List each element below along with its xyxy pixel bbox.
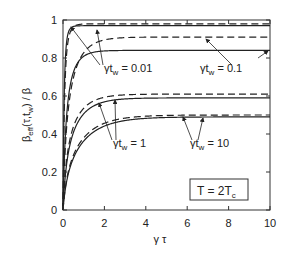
x-tick-label: 0	[60, 217, 66, 229]
svg-text:βeff(τ,tw) / β: βeff(τ,tw) / β	[20, 88, 35, 142]
x-tick-label: 10	[264, 217, 276, 229]
y-tick-label: 0.4	[42, 128, 57, 140]
curve-annotations: γtw = 0.01γtw = 0.1γtw = 1γtw = 10	[71, 27, 268, 152]
annotation-arrow	[99, 103, 112, 140]
curve-label: γtw = 1	[113, 137, 146, 152]
annotation-box: T = 2Tc	[190, 179, 248, 200]
chart: γtw = 0.01γtw = 0.1γtw = 1γtw = 10 02468…	[0, 0, 290, 256]
curve-label: γtw = 0.1	[200, 62, 242, 77]
curve-label: γtw = 0.01	[104, 62, 152, 77]
y-tick-label: 1	[51, 14, 57, 26]
annotation-arrow	[97, 30, 103, 65]
svg-text:T = 2Tc: T = 2Tc	[197, 184, 236, 200]
x-tick-label: 8	[226, 217, 232, 229]
y-tick-label: 0.6	[42, 90, 57, 102]
y-tick-label: 0	[51, 204, 57, 216]
x-axis-label: γ τ	[154, 233, 168, 245]
annotation-arrow	[71, 27, 100, 65]
x-tick-label: 4	[143, 217, 149, 229]
x-tick-label: 6	[184, 217, 190, 229]
curve-label: γtw = 10	[190, 137, 229, 152]
x-tick-label: 2	[101, 217, 107, 229]
y-tick-label: 0.8	[42, 52, 57, 64]
annotation-arrow	[115, 100, 116, 140]
y-axis-label: βeff(τ,tw) / β	[20, 88, 35, 142]
annotation-arrow	[198, 118, 203, 140]
y-tick-label: 0.2	[42, 166, 57, 178]
annotation-arrow	[258, 51, 268, 58]
